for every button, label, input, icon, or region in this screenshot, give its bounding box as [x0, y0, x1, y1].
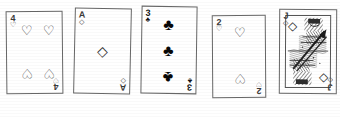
playing-card-ace-of-diamonds[interactable]: A ◇ A ◇ ◇ [73, 7, 132, 94]
diamonds-icon: ◇ [283, 20, 288, 27]
clubs-icon: ♣ [188, 76, 193, 83]
card-rank-label: 3 [188, 83, 193, 91]
card-rank-label: 2 [257, 87, 262, 95]
corner-index-top-left: 3 ♣ [145, 9, 150, 24]
playing-card-three-of-clubs[interactable]: 3 ♣ 3 ♣ ♣ ♣ ♣ [140, 6, 197, 95]
diamonds-icon: ◇ [121, 76, 126, 83]
diamonds-icon: ◇ [328, 76, 333, 83]
card-rank-label: J [328, 83, 333, 91]
corner-index-top-left: J ◇ [283, 12, 288, 27]
hearts-icon: ♡ [234, 26, 246, 39]
corner-index-top-left: 4 ♡ [10, 14, 16, 29]
hearts-icon: ♡ [21, 67, 33, 80]
clubs-icon: ♣ [163, 69, 174, 85]
corner-index-top-left: A ◇ [79, 10, 85, 25]
clubs-icon: ♣ [145, 17, 150, 24]
diamonds-icon: ◇ [319, 71, 328, 83]
card-rank-label: A [120, 83, 126, 91]
diamonds-icon: ◇ [79, 19, 84, 26]
card-rank-label: 4 [54, 83, 59, 91]
playing-card-two-of-hearts[interactable]: 2 ♡ 2 ♡ ♡ ♡ [212, 15, 267, 98]
corner-index-top-left: 2 ♡ [216, 18, 222, 33]
playing-card-four-of-hearts[interactable]: 4 ♡ 4 ♡ ♡ ♡ ♡ ♡ [6, 11, 64, 95]
hearts-icon: ♡ [256, 80, 262, 87]
hearts-icon: ♡ [21, 24, 33, 37]
clubs-icon: ♣ [163, 43, 174, 59]
clubs-icon: ♣ [163, 17, 174, 33]
corner-index-bottom-right: 2 ♡ [256, 80, 262, 95]
hearts-icon: ♡ [10, 22, 16, 29]
corner-index-bottom-right: A ◇ [120, 76, 126, 91]
hearts-icon: ♡ [234, 72, 246, 85]
playing-card-jack-of-diamonds[interactable]: J ◇ J ◇ [279, 9, 337, 94]
corner-index-bottom-right: 3 ♣ [188, 76, 193, 91]
hearts-icon: ♡ [216, 26, 222, 33]
hearts-icon: ♡ [43, 67, 55, 80]
card-row: 4 ♡ 4 ♡ ♡ ♡ ♡ ♡ A ◇ A ◇ ◇ 3 ♣ 3 ♣ ♣ [0, 0, 340, 117]
diamonds-icon: ◇ [288, 20, 297, 32]
corner-index-bottom-right: J ◇ [328, 76, 333, 91]
hearts-icon: ♡ [43, 24, 55, 37]
diamonds-icon: ◇ [97, 45, 108, 59]
jack-court-artwork: ◇ ◇ [285, 15, 331, 88]
